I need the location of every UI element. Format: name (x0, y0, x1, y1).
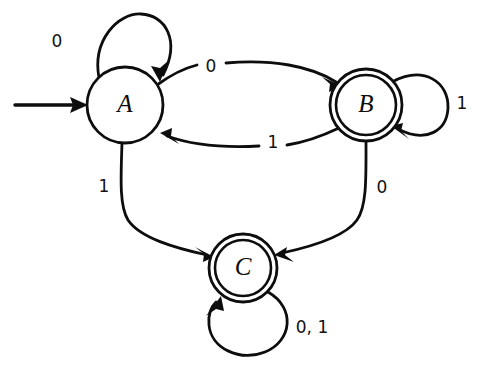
transition-b-to-a-path-right (287, 128, 339, 145)
transition-c-to-c-label: 0, 1 (296, 317, 328, 337)
fsm-canvas: 0 0 1 1 1 (0, 0, 489, 373)
state-machine-diagram: 0 0 1 1 1 (0, 0, 489, 373)
transition-a-to-b-label: 0 (206, 56, 217, 76)
start-arrow (15, 97, 88, 113)
state-node-a[interactable]: A (87, 67, 163, 143)
transition-a-to-c-label: 1 (99, 176, 110, 196)
transition-b-to-a-arrowhead (160, 128, 179, 144)
transition-a-to-c-path (121, 143, 207, 255)
transition-b-to-b-label: 1 (457, 93, 468, 113)
state-node-c[interactable]: C (209, 234, 277, 302)
transition-a-to-c: 1 (99, 143, 214, 262)
transition-b-to-c-path (282, 142, 366, 253)
state-node-b[interactable]: B (330, 69, 402, 141)
transition-a-to-b: 0 (157, 56, 342, 92)
transition-a-to-b-path-right (226, 62, 336, 82)
transition-b-to-c-label: 0 (377, 177, 388, 197)
state-c-label: C (235, 253, 252, 280)
transition-b-to-a: 1 (160, 128, 339, 152)
transition-b-to-a-label: 1 (268, 132, 279, 152)
transition-c-to-c: 0, 1 (206, 292, 328, 355)
transition-a-to-a-label: 0 (52, 31, 63, 51)
transition-c-to-c-arrowhead (206, 296, 224, 316)
transition-b-to-a-path-left (167, 136, 259, 147)
state-a-label: A (115, 90, 133, 117)
transition-b-to-c: 0 (274, 142, 387, 262)
state-b-label: B (358, 90, 373, 117)
